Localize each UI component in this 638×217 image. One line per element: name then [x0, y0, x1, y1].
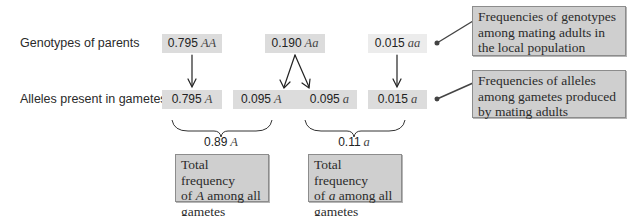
allele-symbol: A — [196, 188, 204, 203]
leader-line-genotypes — [437, 21, 473, 43]
leader-dot-alleles — [435, 97, 439, 101]
callout-line: among mating adults in — [478, 25, 620, 41]
text-of: of — [314, 188, 329, 203]
callout-line: Frequencies of alleles — [478, 73, 620, 89]
total-A-value: 0.89A — [196, 135, 246, 150]
text-among-all: among all — [335, 188, 392, 203]
callout-line: by mating adults — [478, 104, 620, 120]
total-a-value: 0.11a — [329, 135, 379, 150]
callout-line: the local population — [478, 40, 620, 56]
text-of: of — [181, 188, 196, 203]
callout-total-a: Total frequency of a among all gametes — [308, 154, 402, 202]
leader-line-alleles — [437, 83, 473, 99]
allele-symbol: a — [364, 135, 370, 150]
text-among-all: among all — [204, 188, 261, 203]
total-frequency: 0.89 — [204, 135, 227, 149]
leader-dot-genotypes — [435, 41, 439, 45]
callout-line: of a among all — [314, 188, 396, 204]
callout-line: Frequencies of genotypes — [478, 9, 620, 25]
callout-total-A: Total frequency of A among all gametes — [175, 154, 269, 202]
callout-allele-frequencies: Frequencies of alleles among gametes pro… — [472, 70, 626, 118]
callout-line: Total frequency — [181, 157, 263, 188]
callout-line: Total frequency — [314, 157, 396, 188]
callout-line: among gametes produced — [478, 89, 620, 105]
callout-line: gametes — [314, 204, 396, 217]
allele-symbol: A — [230, 135, 238, 150]
arrow-Aa-to-a — [295, 55, 309, 87]
total-frequency: 0.11 — [338, 135, 360, 149]
callout-line: of A among all — [181, 188, 263, 204]
callout-line: gametes — [181, 204, 263, 217]
callout-genotype-frequencies: Frequencies of genotypes among mating ad… — [472, 6, 626, 56]
